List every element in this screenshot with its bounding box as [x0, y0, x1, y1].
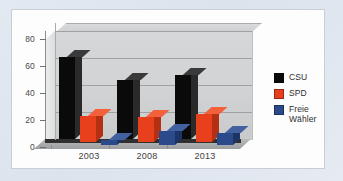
y-tick-mark-20: [40, 120, 46, 121]
y-tick-mark-0: [40, 147, 46, 148]
legend-label: CSU: [289, 72, 307, 82]
x-tick-label-2008: 2008: [127, 151, 167, 161]
chart-panel: 020406080 200320082013 CSUSPDFreie Wähle…: [11, 9, 325, 169]
bar-2008-freie-wähler: [159, 131, 175, 145]
y-axis-wall-line: [55, 23, 56, 140]
bar-face: [59, 57, 75, 139]
y-tick-mark-60: [40, 66, 46, 67]
gridline-60: [55, 58, 252, 59]
x-tick-label-2003: 2003: [69, 151, 109, 161]
bar-face: [117, 80, 133, 139]
bar-face: [217, 133, 233, 145]
bar-face: [159, 131, 175, 145]
bar-2013-freie-wähler: [217, 133, 233, 145]
bar-2003-csu: [59, 57, 75, 139]
legend-label: SPD: [289, 88, 307, 98]
bar-2008-csu: [117, 80, 133, 139]
legend-item-spd[interactable]: SPD: [274, 88, 330, 99]
y-tick-label-40: 40: [25, 88, 35, 98]
legend-label: Freie Wähler: [289, 104, 330, 124]
bar-face: [101, 140, 117, 145]
bar-face: [80, 116, 96, 142]
plot-side-wall: [45, 31, 55, 148]
bar-2008-spd: [138, 117, 154, 142]
y-axis-line: [45, 31, 46, 139]
x-tick-mark-2008: [109, 145, 110, 149]
chart-legend: CSUSPDFreie Wähler: [274, 72, 330, 129]
legend-swatch-icon: [274, 89, 284, 99]
bar-2013-spd: [196, 114, 212, 142]
legend-item-csu[interactable]: CSU: [274, 72, 330, 83]
bar-face: [196, 114, 212, 142]
y-tick-label-20: 20: [25, 115, 35, 125]
legend-item-freie-wähler[interactable]: Freie Wähler: [274, 104, 330, 124]
legend-swatch-icon: [274, 105, 284, 115]
y-tick-label-80: 80: [25, 34, 35, 44]
x-tick-mark-2003: [51, 145, 52, 149]
gridline-80: [55, 31, 252, 32]
plot-area: 020406080 200320082013: [45, 23, 251, 149]
x-tick-label-2013: 2013: [185, 151, 225, 161]
x-tick-mark-2013: [167, 145, 168, 149]
y-tick-label-60: 60: [25, 61, 35, 71]
chart-figure: 020406080 200320082013 CSUSPDFreie Wähle…: [0, 0, 343, 181]
bar-2003-spd: [80, 116, 96, 142]
y-tick-mark-40: [40, 93, 46, 94]
bar-2003-freie-wähler: [101, 140, 117, 145]
y-tick-label-0: 0: [30, 142, 35, 152]
gridline-40: [55, 85, 252, 86]
legend-swatch-icon: [274, 73, 284, 83]
y-tick-mark-80: [40, 39, 46, 40]
bar-face: [138, 117, 154, 142]
